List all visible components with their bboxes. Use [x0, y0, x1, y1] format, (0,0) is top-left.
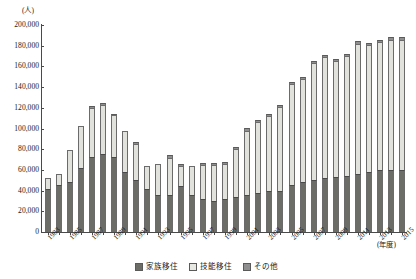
legend-swatch-icon	[189, 263, 197, 271]
legend-item[interactable]: 家族移住	[135, 262, 178, 272]
bar-2005	[289, 82, 295, 232]
x-axis-tick-mark	[125, 232, 126, 235]
bar-2012	[366, 43, 372, 232]
y-axis-tick-label: 80,000	[18, 144, 39, 153]
bar-segment	[233, 149, 239, 197]
bar-segment	[244, 131, 250, 195]
bar-segment	[300, 182, 306, 232]
x-axis-tick-mark	[303, 232, 304, 235]
bar-segment	[178, 186, 184, 232]
bar-segment	[266, 191, 272, 232]
bar-2006	[300, 77, 306, 232]
x-axis-tick-mark	[103, 232, 104, 235]
chart-title	[0, 0, 413, 3]
x-axis-tick-mark	[59, 232, 60, 235]
bar-2015	[399, 37, 405, 232]
legend-swatch-icon	[135, 263, 143, 271]
bar-2001	[244, 128, 250, 233]
bar-segment	[178, 166, 184, 187]
y-axis-tick-label: 200,000	[14, 20, 39, 29]
bar-segment	[366, 172, 372, 232]
bar-segment	[222, 199, 228, 232]
bar-1985	[67, 150, 73, 232]
bar-segment	[100, 154, 106, 232]
bar-segment	[67, 182, 73, 232]
bar-1983	[45, 178, 51, 232]
y-axis-tick-label: 180,000	[14, 41, 39, 50]
bar-segment	[311, 180, 317, 232]
bar-segment	[355, 44, 361, 174]
bar-segment	[344, 176, 350, 232]
bar-segment	[122, 172, 128, 232]
legend-label: その他	[254, 262, 278, 272]
bar-segment	[366, 45, 372, 172]
bar-1989	[111, 114, 117, 232]
bar-segment	[377, 170, 383, 232]
bar-segment	[56, 185, 62, 232]
bar-segment	[344, 56, 350, 176]
bar-1993	[155, 164, 161, 232]
legend-label: 技能移住	[200, 262, 232, 272]
y-axis-tick-label: 20,000	[18, 206, 39, 215]
bar-segment	[399, 40, 405, 170]
x-axis-tick-mark	[280, 232, 281, 235]
x-axis-tick-mark	[258, 232, 259, 235]
x-axis-tick-mark	[147, 232, 148, 235]
y-axis-tick-label: 100,000	[14, 124, 39, 133]
bar-segment	[89, 108, 95, 158]
bar-2000	[233, 147, 239, 232]
bar-segment	[211, 165, 217, 201]
legend-item[interactable]: その他	[243, 262, 278, 272]
y-axis-tick-label: 120,000	[14, 103, 39, 112]
bar-segment	[244, 195, 250, 232]
bar-segment	[277, 107, 283, 191]
bar-1994	[167, 155, 173, 232]
x-axis-unit-label: (年度)	[377, 240, 396, 249]
bar-segment	[266, 116, 272, 191]
bar-2008	[322, 55, 328, 232]
bar-1991	[133, 142, 139, 232]
bar-1999	[222, 162, 228, 232]
y-axis-tick-label: 0	[35, 227, 39, 236]
bar-1992	[144, 166, 150, 232]
bar-segment	[78, 126, 84, 167]
y-axis-tick-label: 60,000	[18, 165, 39, 174]
bar-1996	[189, 166, 195, 232]
bar-1997	[200, 163, 206, 232]
x-axis-tick-mark	[347, 232, 348, 235]
bar-1995	[178, 164, 184, 232]
x-axis-tick-mark	[214, 232, 215, 235]
chart-legend: 家族移住技能移住その他	[0, 262, 413, 272]
bar-segment	[45, 178, 51, 188]
bar-segment	[289, 185, 295, 232]
x-axis-tick-mark	[170, 232, 171, 235]
bar-segment	[144, 166, 150, 189]
bar-segment	[222, 164, 228, 199]
bar-segment	[67, 150, 73, 182]
x-axis-tick-mark	[192, 232, 193, 235]
bar-segment	[322, 178, 328, 232]
bar-segment	[388, 170, 394, 232]
bar-segment	[200, 165, 206, 199]
plot-area	[41, 25, 407, 232]
bar-segment	[167, 158, 173, 195]
bar-segment	[189, 166, 195, 195]
x-axis-tick-mark	[391, 232, 392, 235]
bar-1984	[56, 174, 62, 232]
bar-segment	[388, 40, 394, 170]
bar-segment	[155, 195, 161, 232]
bar-segment	[111, 157, 117, 232]
bar-segment	[311, 63, 317, 180]
legend-label: 家族移住	[146, 262, 178, 272]
bar-1988	[100, 103, 106, 232]
bar-segment	[200, 199, 206, 232]
bar-2009	[333, 59, 339, 232]
legend-swatch-icon	[243, 263, 251, 271]
bar-segment	[133, 144, 139, 180]
bar-segment	[56, 174, 62, 185]
y-axis-tick-label: 40,000	[18, 186, 39, 195]
x-axis-tick-mark	[325, 232, 326, 235]
bar-1986	[78, 126, 84, 232]
legend-item[interactable]: 技能移住	[189, 262, 232, 272]
